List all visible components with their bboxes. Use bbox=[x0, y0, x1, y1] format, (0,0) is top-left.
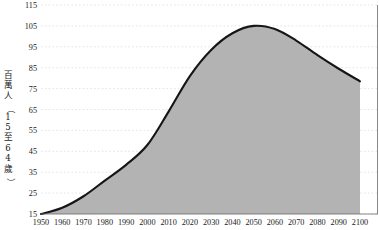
y-tick-label: 95 bbox=[29, 43, 37, 52]
x-tick-label: 2050 bbox=[245, 218, 261, 227]
y-axis-title-char: 1 bbox=[5, 112, 10, 122]
x-tick-label: 2000 bbox=[139, 218, 155, 227]
y-tick-label: 75 bbox=[29, 85, 37, 94]
y-axis-title-char: 4 bbox=[5, 153, 11, 163]
x-tick-label: 2030 bbox=[203, 218, 219, 227]
x-tick-label: 1990 bbox=[118, 218, 134, 227]
chart-container: 152535455565758595105115 195019601970198… bbox=[0, 0, 379, 230]
y-axis-title-char: ） bbox=[6, 178, 16, 187]
x-tick-label: 2040 bbox=[224, 218, 240, 227]
area-chart: 152535455565758595105115 195019601970198… bbox=[0, 0, 379, 230]
x-tick-label: 2020 bbox=[182, 218, 198, 227]
y-tick-label: 25 bbox=[29, 189, 37, 198]
y-axis-title-char: 人 bbox=[4, 91, 13, 101]
y-axis-title-char: 百 bbox=[4, 70, 13, 80]
y-axis-title-char: 至 bbox=[4, 132, 13, 142]
y-tick-label: 55 bbox=[29, 126, 37, 135]
y-tick-label: 65 bbox=[29, 106, 37, 115]
y-tick-label: 115 bbox=[25, 1, 37, 10]
y-axis-title-char: 萬 bbox=[4, 79, 13, 90]
y-tick-label: 85 bbox=[29, 64, 37, 73]
x-tick-label: 2090 bbox=[331, 218, 347, 227]
x-tick-label: 2060 bbox=[267, 218, 283, 227]
y-tick-label: 35 bbox=[29, 168, 37, 177]
y-tick-label: 105 bbox=[25, 22, 37, 31]
y-axis-title-char: 5 bbox=[5, 122, 10, 132]
x-tick-label: 1980 bbox=[97, 218, 113, 227]
x-tick-label: 1950 bbox=[33, 218, 49, 227]
x-tick-label: 2100 bbox=[352, 218, 368, 227]
y-axis-title-char: 歲 bbox=[4, 163, 13, 174]
x-tick-label: 1960 bbox=[54, 218, 70, 227]
x-tick-label: 2010 bbox=[160, 218, 176, 227]
x-tick-label: 2070 bbox=[288, 218, 304, 227]
x-tick-label: 2080 bbox=[309, 218, 325, 227]
y-axis-title-char: 6 bbox=[5, 143, 10, 153]
x-tick-label: 1970 bbox=[75, 218, 91, 227]
y-tick-label: 45 bbox=[29, 147, 37, 156]
